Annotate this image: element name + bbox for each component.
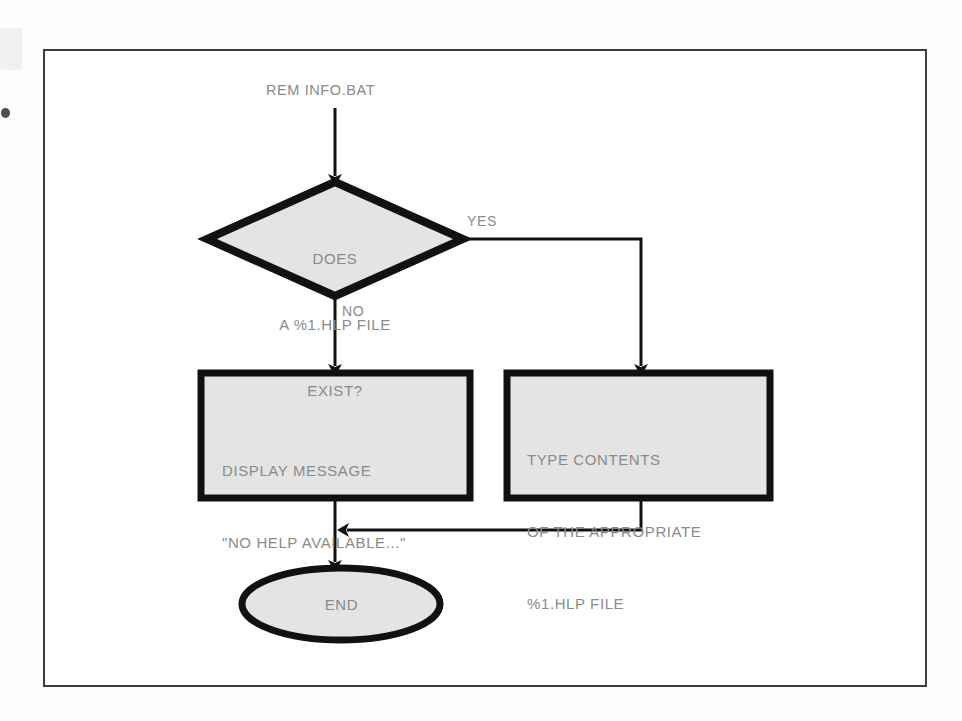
page-margin-artifact: [0, 28, 22, 70]
decision-line-3: EXIST?: [253, 380, 417, 402]
process-right-line-1: TYPE CONTENTS: [527, 448, 701, 472]
process-left-line-2: "NO HELP AVAILABLE...": [222, 531, 406, 555]
process-left-text: DISPLAY MESSAGE "NO HELP AVAILABLE...": [222, 411, 406, 603]
process-right-line-3: %1.HLP FILE: [527, 592, 701, 616]
decision-line-1: DOES: [253, 248, 417, 270]
end-node-text: END: [243, 594, 440, 615]
process-right-text: TYPE CONTENTS OF THE APPROPRIATE %1.HLP …: [527, 400, 701, 664]
process-right-line-2: OF THE APPROPRIATE: [527, 520, 701, 544]
start-label-text: REM INFO.BAT: [266, 82, 375, 98]
decision-node-text: DOES A %1.HLP FILE EXIST?: [253, 204, 417, 446]
page-margin-dot-artifact: [1, 108, 10, 118]
edge-label-yes: YES: [467, 213, 497, 229]
figure-frame: [43, 49, 927, 687]
page-canvas: REM INFO.BAT YES NO DOES A %1.HLP FILE E…: [0, 0, 962, 721]
decision-line-2: A %1.HLP FILE: [253, 314, 417, 336]
process-left-line-1: DISPLAY MESSAGE: [222, 459, 406, 483]
